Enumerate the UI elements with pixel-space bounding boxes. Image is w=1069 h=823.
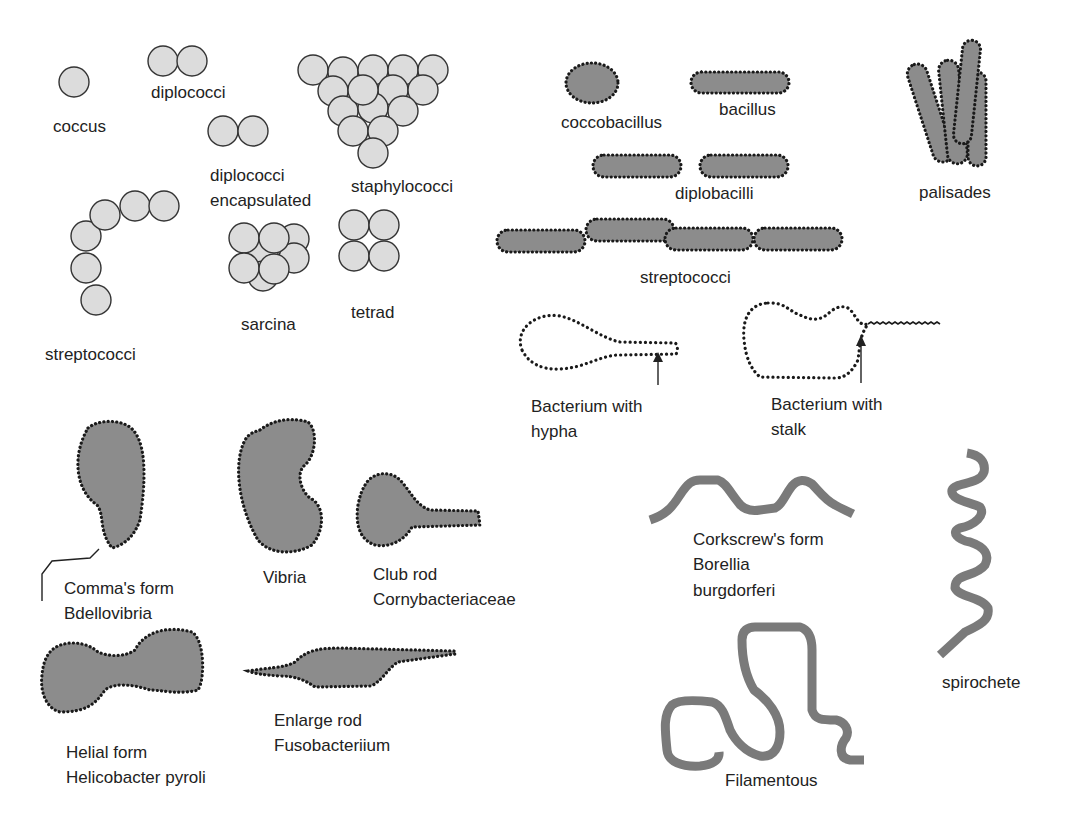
- club-rod-shape: [357, 474, 480, 546]
- sarcina-label: sarcina: [241, 315, 296, 334]
- corkscrew-label-line2: Borellia: [693, 555, 750, 574]
- diplococci-encapsulated-label-line1: diplococci: [210, 166, 285, 185]
- streptobacilli-label: streptococci: [640, 268, 731, 287]
- stalk-label-line1: Bacterium with: [771, 395, 882, 414]
- tetrad-shape: [339, 210, 399, 271]
- coccobacillus-shape: [566, 63, 618, 103]
- hypha-label-line1: Bacterium with: [531, 397, 642, 416]
- spirochete-label: spirochete: [942, 673, 1020, 692]
- comma-form-shape: [42, 421, 144, 601]
- streptobacilli-shape: [497, 219, 842, 252]
- filamentous-label: Filamentous: [725, 771, 818, 790]
- coccobacillus-label: coccobacillus: [561, 113, 662, 132]
- coccus-label: coccus: [53, 117, 106, 136]
- filamentous-shape: [665, 627, 864, 766]
- bacillus-label: bacillus: [719, 100, 776, 119]
- enlarge-rod-label-line2: Fusobacteriium: [274, 736, 390, 755]
- tetrad-label: tetrad: [351, 303, 394, 322]
- palisades-label: palisades: [919, 183, 991, 202]
- diplobacilli-shape: [593, 155, 788, 177]
- vibria-label: Vibria: [263, 568, 307, 587]
- coccus-shape: [59, 67, 89, 97]
- stalk-appendage: [868, 322, 940, 324]
- diplobacilli-label: diplobacilli: [675, 184, 753, 203]
- bacteria-morphology-diagram: coccus diplococci diplococci encapsulate…: [0, 0, 1069, 823]
- streptococci-cocci-label: streptococci: [45, 345, 136, 364]
- corkscrew-label-line3: burgdorferi: [693, 581, 775, 600]
- enlarge-rod-label-line1: Enlarge rod: [274, 711, 362, 730]
- comma-label-line1: Comma's form: [64, 579, 174, 598]
- streptococci-cocci-shape: [71, 191, 179, 315]
- diplococci-label: diplococci: [151, 83, 226, 102]
- spirochete-shape: [940, 453, 988, 655]
- hypha-label-line2: hypha: [531, 422, 578, 441]
- palisades-shape: [905, 39, 986, 166]
- bacterium-hypha-shape: [520, 315, 677, 385]
- club-rod-label-line1: Cornybacteriaceae: [373, 590, 516, 609]
- helial-label-line1: Helial form: [66, 743, 147, 762]
- diplococci-encapsulated-label-line2: encapsulated: [210, 191, 311, 210]
- comma-label-line2: Bdellovibria: [64, 604, 152, 623]
- sarcina-shape: [229, 223, 309, 291]
- staphylococci-shape: [298, 55, 448, 168]
- staphylococci-label: staphylococci: [351, 177, 453, 196]
- club-rod-label-line1: Club rod: [373, 565, 437, 584]
- diplococci-encapsulated-shape: [208, 116, 268, 146]
- bacillus-shape: [691, 72, 789, 93]
- bacterium-stalk-shape: [744, 303, 940, 383]
- corkscrew-shape: [650, 480, 853, 520]
- corkscrew-label-line1: Corkscrew's form: [693, 530, 824, 549]
- enlarge-rod-shape: [248, 648, 455, 687]
- diplococci-shape: [148, 46, 207, 76]
- helial-form-shape: [42, 629, 203, 712]
- helial-label-line2: Helicobacter pyroli: [66, 768, 206, 787]
- stalk-label-line2: stalk: [771, 420, 806, 439]
- vibria-shape: [239, 420, 322, 552]
